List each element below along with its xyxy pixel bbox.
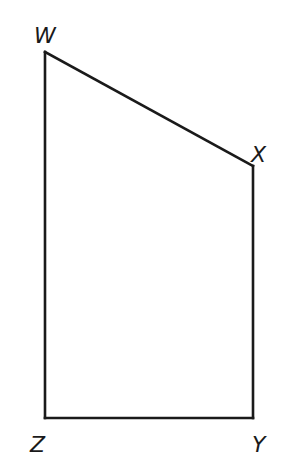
edges bbox=[45, 52, 253, 418]
vertex-label-y: Y bbox=[252, 432, 267, 457]
vertex-labels: W X Y Z bbox=[29, 23, 267, 457]
quadrilateral-wxyz-diagram: W X Y Z bbox=[0, 0, 291, 470]
vertex-label-x: X bbox=[250, 142, 267, 167]
vertex-label-w: W bbox=[34, 23, 57, 48]
edge-wx bbox=[45, 52, 253, 166]
vertex-label-z: Z bbox=[29, 432, 46, 457]
